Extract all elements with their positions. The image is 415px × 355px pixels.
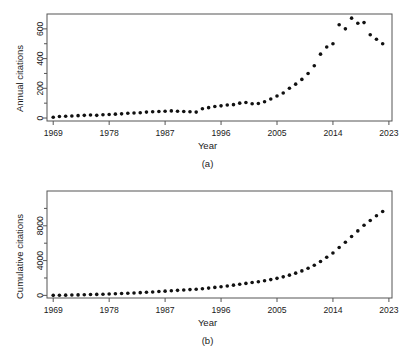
data-point [356, 21, 360, 25]
x-tick-label: 2005 [267, 305, 286, 315]
y-tick-label: 600 [35, 21, 45, 36]
data-point [58, 115, 62, 119]
data-point-series [51, 16, 384, 119]
y-axis-label-a: Annual citations [14, 45, 25, 112]
x-tick-label: 2014 [323, 128, 342, 138]
data-point [95, 114, 99, 118]
data-point [89, 113, 93, 117]
data-point [89, 293, 93, 297]
data-point [381, 210, 385, 214]
data-point [188, 110, 192, 114]
data-point [313, 64, 317, 68]
data-point [368, 219, 372, 223]
data-point [300, 269, 304, 273]
data-point [76, 293, 80, 297]
data-point [269, 278, 273, 282]
y-tick-label: 4000 [35, 251, 45, 270]
data-point [114, 292, 118, 296]
data-point [163, 289, 167, 293]
citation-figure: 19691978198719962005201420230200400600 A… [0, 0, 415, 355]
data-point [281, 91, 285, 95]
data-point [225, 284, 229, 288]
data-point [250, 281, 254, 285]
data-point [337, 23, 341, 27]
y-tick-label: 200 [35, 81, 45, 96]
data-point [126, 291, 130, 295]
data-point [219, 104, 223, 108]
data-point [64, 114, 68, 118]
data-point [275, 277, 279, 281]
data-point [182, 110, 186, 114]
data-point [207, 106, 211, 110]
data-point [232, 283, 236, 287]
data-point [344, 27, 348, 31]
data-point [176, 289, 180, 293]
data-point-series [51, 210, 384, 297]
data-point [138, 111, 142, 115]
data-point [362, 224, 366, 228]
data-point [101, 113, 105, 117]
data-point [263, 100, 267, 104]
data-point [76, 114, 80, 118]
x-axis-label-a: Year [0, 140, 415, 151]
data-point [375, 37, 379, 41]
data-point [120, 112, 124, 116]
data-point [64, 293, 68, 297]
x-tick-label: 1978 [100, 128, 119, 138]
data-point [213, 105, 217, 109]
data-point [207, 286, 211, 290]
data-point [151, 290, 155, 294]
x-tick-label: 2014 [323, 305, 342, 315]
data-point [331, 42, 335, 46]
data-point [306, 266, 310, 270]
data-point [194, 110, 198, 114]
data-point [250, 102, 254, 106]
data-point [151, 110, 155, 114]
x-tick-label: 1969 [44, 128, 63, 138]
y-tick-label: 0 [35, 293, 45, 298]
x-tick-label: 2023 [379, 305, 398, 315]
data-point [170, 109, 174, 113]
data-point [145, 291, 149, 295]
x-tick-label: 1987 [156, 128, 175, 138]
data-point [126, 111, 130, 115]
data-point [157, 110, 161, 114]
data-point [51, 294, 55, 298]
data-point [294, 271, 298, 275]
data-point [95, 293, 99, 297]
data-point [201, 107, 205, 111]
x-tick-label: 1969 [44, 305, 63, 315]
data-point [58, 293, 62, 297]
x-tick-label: 2023 [379, 128, 398, 138]
x-tick-label: 1987 [156, 305, 175, 315]
data-point [257, 280, 261, 284]
data-point [306, 72, 310, 76]
data-point [101, 292, 105, 296]
x-tick-label: 1996 [211, 128, 230, 138]
data-point [107, 113, 111, 117]
data-point [232, 103, 236, 107]
data-point [244, 282, 248, 286]
panel-caption-b: (b) [0, 335, 415, 346]
panel-caption-a: (a) [0, 158, 415, 169]
data-point [182, 288, 186, 292]
data-point [51, 115, 55, 119]
data-point [145, 110, 149, 114]
data-point [83, 293, 87, 297]
data-point [257, 102, 261, 106]
data-point [319, 52, 323, 56]
data-point [157, 290, 161, 294]
data-point [138, 291, 142, 295]
data-point [263, 279, 267, 283]
data-point [281, 275, 285, 279]
data-point [244, 101, 248, 105]
data-point [300, 78, 304, 82]
data-point [337, 246, 341, 250]
data-point [238, 282, 242, 286]
data-point [381, 42, 385, 46]
data-point [368, 33, 372, 37]
data-point [375, 214, 379, 218]
plot-frame [47, 191, 392, 298]
y-tick-label: 8000 [35, 216, 45, 235]
data-point [114, 112, 118, 116]
